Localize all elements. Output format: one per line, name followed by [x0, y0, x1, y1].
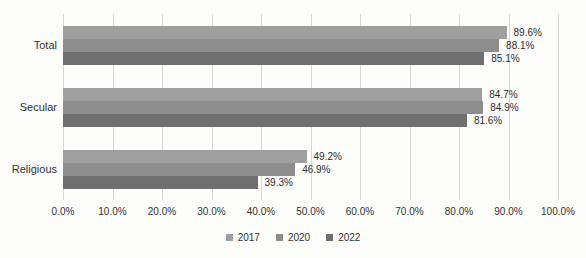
x-tick-label: 30.0% — [188, 206, 236, 217]
bar-total-2017 — [63, 26, 507, 39]
legend-label: 2017 — [238, 232, 260, 243]
plot-area: 89.6%84.7%49.2%88.1%84.9%46.9%85.1%81.6%… — [63, 14, 558, 200]
data-label-religious-2020: 46.9% — [302, 164, 330, 176]
legend-marker-icon — [226, 234, 233, 241]
category-label-total: Total — [0, 38, 57, 52]
data-label-total-2022: 85.1% — [491, 53, 519, 65]
legend-item-2017: 2017 — [226, 232, 260, 243]
bar-secular-2020 — [63, 101, 483, 114]
x-tick-label: 60.0% — [336, 206, 384, 217]
x-tick-label: 100.0% — [534, 206, 582, 217]
category-label-secular: Secular — [0, 100, 57, 114]
data-label-secular-2020: 84.9% — [490, 102, 518, 114]
x-tick-label: 70.0% — [386, 206, 434, 217]
legend-marker-icon — [276, 234, 283, 241]
legend-item-2022: 2022 — [326, 232, 360, 243]
data-label-secular-2022: 81.6% — [474, 115, 502, 127]
legend-label: 2022 — [338, 232, 360, 243]
gridline — [558, 14, 559, 200]
data-label-total-2020: 88.1% — [506, 40, 534, 52]
legend-label: 2020 — [288, 232, 310, 243]
bar-religious-2017 — [63, 150, 307, 163]
bar-religious-2020 — [63, 163, 295, 176]
bar-secular-2017 — [63, 88, 482, 101]
legend-item-2020: 2020 — [276, 232, 310, 243]
bar-secular-2022 — [63, 114, 467, 127]
x-tick-label: 80.0% — [435, 206, 483, 217]
legend: 201720202022 — [0, 232, 586, 243]
data-label-religious-2022: 39.3% — [265, 177, 293, 189]
legend-marker-icon — [326, 234, 333, 241]
bar-total-2022 — [63, 52, 484, 65]
x-tick-label: 40.0% — [237, 206, 285, 217]
x-tick-label: 20.0% — [138, 206, 186, 217]
x-tick-label: 10.0% — [89, 206, 137, 217]
x-tick-label: 0.0% — [39, 206, 87, 217]
x-tick-label: 50.0% — [287, 206, 335, 217]
bar-chart: 89.6%84.7%49.2%88.1%84.9%46.9%85.1%81.6%… — [0, 0, 586, 258]
bar-religious-2022 — [63, 176, 258, 189]
data-label-secular-2017: 84.7% — [489, 89, 517, 101]
x-tick-label: 90.0% — [485, 206, 533, 217]
data-label-total-2017: 89.6% — [514, 27, 542, 39]
bar-total-2020 — [63, 39, 499, 52]
category-label-religious: Religious — [0, 162, 57, 176]
data-label-religious-2017: 49.2% — [314, 151, 342, 163]
